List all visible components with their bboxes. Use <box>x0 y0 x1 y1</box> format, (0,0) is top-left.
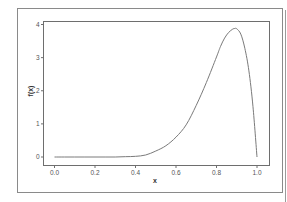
x-axis-label: x <box>153 177 157 184</box>
y-tick-label: 2 <box>36 87 40 94</box>
x-tick-label: 0.2 <box>90 169 99 176</box>
plot-area <box>44 22 270 166</box>
x-tick-label: 0.4 <box>131 169 140 176</box>
y-tick-label: 4 <box>36 21 40 28</box>
y-tick-label: 3 <box>36 54 40 61</box>
y-tick-label: 0 <box>36 153 40 160</box>
x-tick-label: 0.8 <box>212 169 221 176</box>
chart: 0.00.20.40.60.81.0 01234 x f(x) <box>0 0 287 202</box>
x-tick-label: 1.0 <box>252 169 261 176</box>
y-tick-label: 1 <box>36 120 40 127</box>
x-tick-label: 0.0 <box>50 169 59 176</box>
y-axis-label: f(x) <box>27 86 35 97</box>
x-tick-label: 0.6 <box>171 169 180 176</box>
